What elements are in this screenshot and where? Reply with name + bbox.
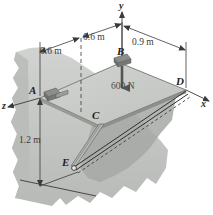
point-label-e: E — [62, 157, 69, 168]
point-label-b: B — [117, 46, 124, 57]
point-label-d: D — [176, 76, 184, 87]
diagram-canvas — [0, 0, 213, 215]
statics-diagram-figure: y x z A B C D E 0.6 m 0.6 m 0.9 m 1.2 m … — [0, 0, 213, 215]
dimension-label-a-mid: 0.6 m — [40, 47, 62, 57]
point-label-c: C — [92, 110, 99, 121]
dimension-label-vertical: 1.2 m — [19, 136, 41, 146]
dimension-label-mid-b: 0.6 m — [83, 33, 105, 43]
point-label-a: A — [29, 85, 36, 96]
dimension-label-b-d: 0.9 m — [132, 38, 154, 48]
load-label: 600 N — [111, 82, 135, 92]
axis-label-y: y — [119, 1, 123, 11]
node-markers — [72, 166, 77, 171]
axis-label-z: z — [2, 101, 6, 111]
axis-label-x: x — [201, 99, 206, 109]
